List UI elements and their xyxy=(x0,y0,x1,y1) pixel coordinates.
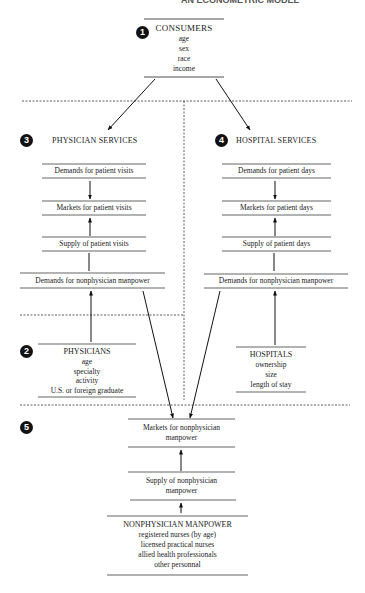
box-supply-nonphysician-line2: manpower xyxy=(128,486,235,496)
box-markets-patient-days: Markets for patient days xyxy=(222,203,331,213)
box-markets-nonphysician-line1: Markets for nonphysician xyxy=(128,423,235,433)
consumers-attr-age: age xyxy=(144,34,224,44)
badge-nonphysician: 5 xyxy=(20,421,33,434)
box-markets-patient-visits: Markets for patient visits xyxy=(42,203,146,213)
arrow-hospital-demands-to-nonphys-markets xyxy=(190,291,220,418)
box-physician-demands-nonphysician: Demands for nonphysician manpower xyxy=(20,276,165,286)
hospitals-attr-length-of-stay: length of stay xyxy=(236,380,306,390)
arrow-consumers-to-physician-services xyxy=(108,79,155,130)
physicians-attr-age: age xyxy=(38,357,136,367)
nonphysician-manpower-title: NONPHYSICIAN MANPOWER xyxy=(107,520,248,530)
box-demands-patient-visits: Demands for patient visits xyxy=(42,166,146,176)
box-supply-patient-visits: Supply of patient visits xyxy=(42,239,146,249)
box-supply-patient-days: Supply of patient days xyxy=(222,239,331,249)
badge-physician-services: 3 xyxy=(20,134,33,147)
arrow-consumers-to-hospital-services xyxy=(216,79,250,130)
nonphysician-attr-allied-health: allied health professionals xyxy=(107,550,248,560)
consumers-attr-income: income xyxy=(144,64,224,74)
nonphysician-attr-licensed-nurses: licensed practical nurses xyxy=(107,540,248,550)
hospitals-title: HOSPITALS xyxy=(236,350,306,360)
hospitals-attr-ownership: ownership xyxy=(236,360,306,370)
nonphysician-attr-registered-nurses: registered nurses (by age) xyxy=(107,530,248,540)
box-supply-nonphysician-line1: Supply of nonphysician xyxy=(128,476,235,486)
consumers-attr-race: race xyxy=(144,54,224,64)
box-demands-patient-days: Demands for patient days xyxy=(222,166,331,176)
box-hospital-demands-nonphysician: Demands for nonphysician manpower xyxy=(204,276,348,286)
consumers-attr-sex: sex xyxy=(144,44,224,54)
hospitals-attr-size: size xyxy=(236,370,306,380)
badge-hospital-services: 4 xyxy=(215,134,228,147)
physicians-attr-graduate: U.S. or foreign graduate xyxy=(38,386,136,396)
physicians-attr-activity: activity xyxy=(38,376,136,386)
badge-physicians: 2 xyxy=(20,345,33,358)
consumers-title: CONSUMERS xyxy=(144,23,224,33)
physician-services-title: PHYSICIAN SERVICES xyxy=(52,136,137,146)
arrow-physician-demands-to-nonphys-markets xyxy=(143,291,173,418)
box-markets-nonphysician-line2: manpower xyxy=(128,433,235,443)
diagram-connectors xyxy=(0,0,365,593)
physicians-title: PHYSICIANS xyxy=(38,347,136,357)
hospital-services-title: HOSPITAL SERVICES xyxy=(236,136,316,146)
nonphysician-attr-other: other personnal xyxy=(107,560,248,570)
